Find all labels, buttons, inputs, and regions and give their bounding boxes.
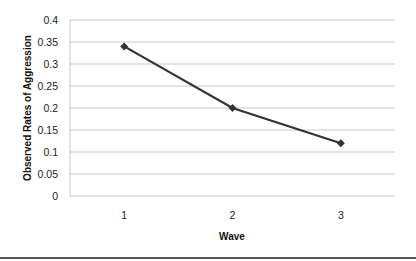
y-tick-label: 0.05 [38, 168, 59, 180]
x-tick-label: 2 [230, 209, 236, 221]
y-tick-label: 0.15 [38, 124, 59, 136]
y-tick-label: 0.35 [38, 36, 59, 48]
y-tick-label: 0.3 [43, 58, 58, 70]
x-tick-label: 1 [121, 209, 127, 221]
y-tick-label: 0.25 [38, 80, 59, 92]
x-axis-title: Wave [219, 231, 245, 242]
y-axis-title: Observed Rates of Aggression [22, 35, 33, 181]
y-tick-label: 0 [52, 190, 58, 202]
line-chart: 00.050.10.150.20.250.30.350.4 123 Observ… [0, 0, 416, 261]
x-axis-tick-labels: 123 [121, 209, 344, 221]
y-tick-label: 0.4 [43, 14, 58, 26]
series-line [124, 46, 341, 143]
y-tick-label: 0.1 [43, 146, 58, 158]
x-tick-label: 3 [338, 209, 344, 221]
data-series [120, 42, 345, 147]
y-tick-label: 0.2 [43, 102, 58, 114]
y-axis-tick-labels: 00.050.10.150.20.250.30.350.4 [38, 14, 59, 202]
diamond-marker-icon [337, 139, 345, 147]
